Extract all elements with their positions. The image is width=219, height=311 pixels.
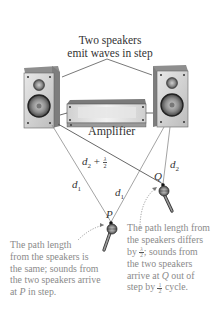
label-plus-sign: + <box>91 155 103 167</box>
label-d1-right-sub: 1 <box>121 193 125 201</box>
caption-q-line-5: arrive at Q out of <box>127 270 219 282</box>
label-d1-left: d1 <box>72 178 81 193</box>
left-speaker-icon <box>24 66 60 128</box>
caption-point-p: The path length from the speakers is the… <box>10 239 110 298</box>
label-d2-plus-half-lambda: d2 + λ2 <box>82 155 107 170</box>
caption-point-q: The path length from the speakers differ… <box>127 222 219 294</box>
caption-q-line-6: step by 12 cycle. <box>127 281 219 293</box>
point-p-label: P <box>106 208 113 220</box>
caption-p-line-4: the two speakers arrive <box>10 274 110 286</box>
diagram-title: Two speakers emit waves in step <box>60 34 160 60</box>
caption-q-line-4: the two speakers <box>127 258 219 270</box>
caption-q-line-3: by λ2; sounds from <box>127 246 219 258</box>
caption-p-line-2: from the speakers is <box>10 251 110 263</box>
label-d2: d2 <box>170 158 179 173</box>
label-d1-right: d1 <box>115 186 124 201</box>
amplifier-label: Amplifier <box>88 124 135 139</box>
point-q-label: Q <box>154 170 162 182</box>
title-pointer-lines <box>62 59 152 77</box>
two-speaker-interference-diagram: Two speakers emit waves in step Amplifie… <box>0 0 219 311</box>
caption-q-line-2: the speakers differs <box>127 234 219 246</box>
caption-p-line-5: at P in step. <box>10 286 110 298</box>
label-half-lambda-fraction: λ2 <box>103 156 108 169</box>
title-line-1: Two speakers <box>60 34 160 47</box>
caption-q-line-1: The path length from <box>127 222 219 234</box>
label-d1-left-sub: 1 <box>78 185 82 193</box>
amplifier-icon <box>60 99 153 127</box>
label-d2-sub: 2 <box>176 165 180 173</box>
caption-p-line-3: the same; sounds from <box>10 263 110 275</box>
caption-p-line-1: The path length <box>10 239 110 251</box>
right-speaker-icon <box>153 65 188 127</box>
title-line-2: emit waves in step <box>60 47 160 60</box>
fraction-denominator: 2 <box>103 163 108 169</box>
fraction-numerator: λ <box>103 156 108 163</box>
microphone-q-icon <box>159 183 172 211</box>
